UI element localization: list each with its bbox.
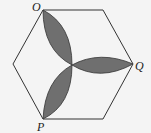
petal-O	[43, 10, 72, 65]
petal-Q	[72, 57, 133, 73]
label-Q: Q	[135, 59, 144, 73]
label-O: O	[32, 0, 41, 14]
label-P: P	[36, 120, 45, 133]
petal-P	[43, 65, 72, 119]
hexagon-diagram: O Q P	[0, 0, 151, 133]
